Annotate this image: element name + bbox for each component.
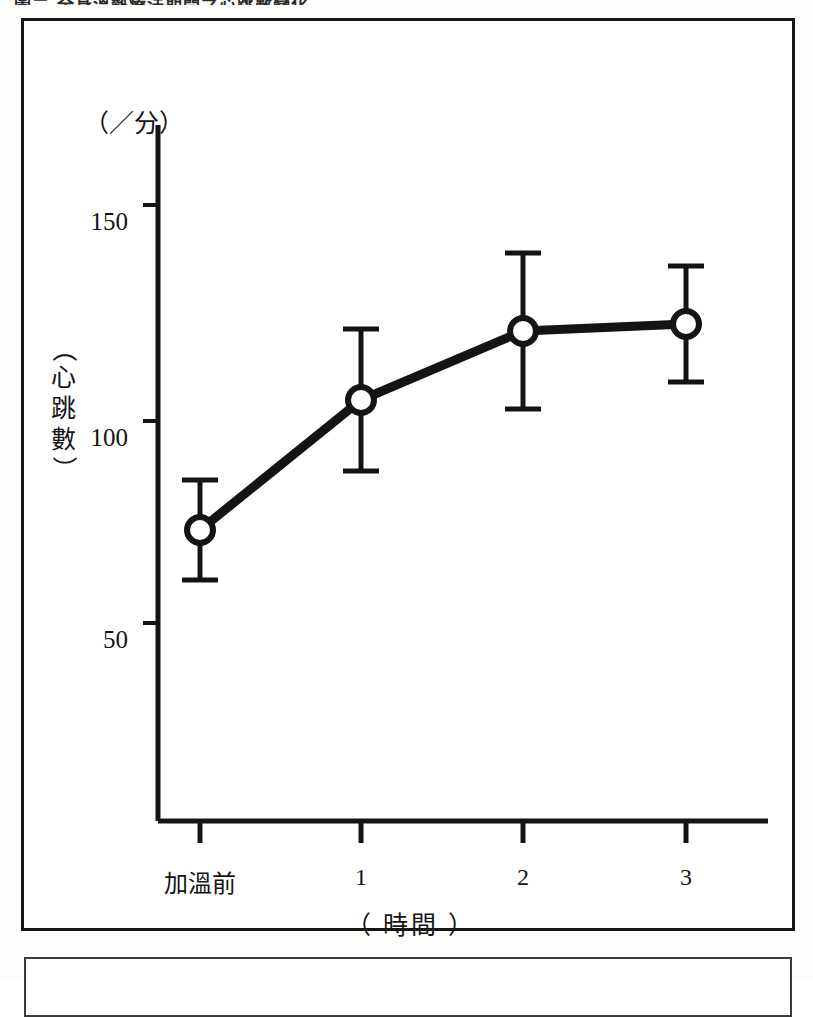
data-point-group-1 bbox=[343, 329, 379, 471]
x-tick-label-2: 2 bbox=[463, 864, 583, 891]
y-axis-unit-label: （／分） bbox=[84, 103, 184, 139]
y-axis-title-close-paren: ） bbox=[50, 451, 76, 485]
y-tick-label-50: 50 bbox=[64, 626, 128, 654]
x-tick-label-1: 1 bbox=[301, 864, 421, 891]
chart-plot-area: （／分） 150 100 50 （ 心 跳 數 ） 加溫前 1 2 3 （ 時間… bbox=[24, 21, 798, 934]
x-tick-label-0: 加溫前 bbox=[140, 864, 260, 899]
line-chart-svg bbox=[24, 21, 798, 934]
data-point-marker bbox=[348, 387, 374, 413]
data-line-series bbox=[200, 324, 686, 530]
figure-border-box: （／分） 150 100 50 （ 心 跳 數 ） 加溫前 1 2 3 （ 時間… bbox=[21, 18, 795, 931]
x-axis-title: （ 時間 ） bbox=[24, 905, 798, 941]
y-axis-title-open-paren: （ bbox=[50, 332, 76, 366]
y-axis-title-char-1: 跳 bbox=[46, 393, 80, 424]
data-point-group-0 bbox=[182, 480, 218, 580]
y-tick-label-150: 150 bbox=[64, 208, 128, 236]
data-point-marker bbox=[187, 517, 213, 543]
y-axis-title: （ 心 跳 數 ） bbox=[46, 336, 80, 481]
y-axis-title-char-0: 心 bbox=[46, 362, 80, 393]
x-tick-label-3: 3 bbox=[626, 864, 746, 891]
lower-border-box bbox=[24, 957, 792, 1017]
figure-top-caption: 圖二 全身溫熱療法期間之心跳數變化 bbox=[14, 0, 794, 5]
data-point-marker bbox=[510, 318, 536, 344]
data-point-marker bbox=[673, 311, 699, 337]
data-point-group-3 bbox=[668, 266, 704, 382]
x-axis-ticks bbox=[200, 821, 686, 843]
data-point-group-2 bbox=[505, 253, 541, 409]
